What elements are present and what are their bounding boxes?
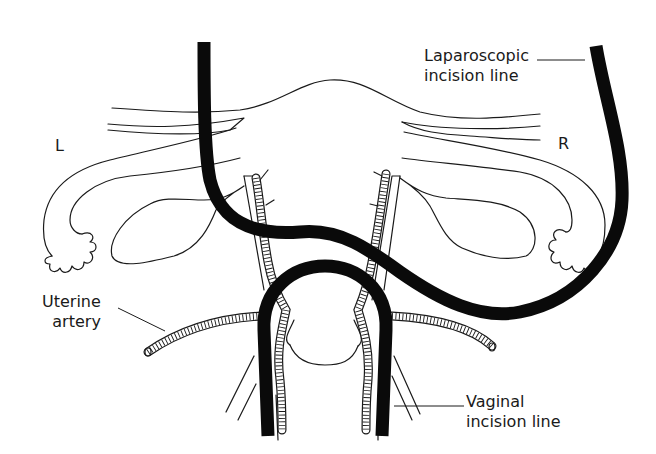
vaginal-label-line2: incision line	[466, 412, 561, 432]
vaginal-label: Vaginal incision line	[466, 392, 561, 432]
uterine-artery-label-line2: artery	[42, 312, 101, 332]
diagram-drawing	[0, 0, 656, 454]
laparoscopic-label-line1: Laparoscopic	[424, 46, 529, 66]
laparoscopic-label-line2: incision line	[424, 66, 529, 86]
uterine-fundus	[108, 80, 540, 140]
right-fallopian-tube	[402, 132, 605, 272]
left-side-label: L	[55, 136, 64, 156]
uterine-artery-left-trunk	[145, 316, 262, 356]
anatomical-diagram: L R Laparoscopic incision line Uterine a…	[0, 0, 656, 454]
right-ovary	[400, 178, 535, 258]
vaginal-label-line1: Vaginal	[466, 392, 561, 412]
cervix	[287, 320, 362, 365]
uterine-artery-right-trunk	[392, 316, 495, 351]
uterine-artery-label: Uterine artery	[42, 292, 101, 332]
laparoscopic-label: Laparoscopic incision line	[424, 46, 529, 86]
uterine-artery-leader-line	[118, 308, 165, 331]
uterine-artery-label-line1: Uterine	[42, 292, 101, 312]
right-side-label: R	[558, 134, 569, 154]
left-ovary	[111, 186, 244, 264]
